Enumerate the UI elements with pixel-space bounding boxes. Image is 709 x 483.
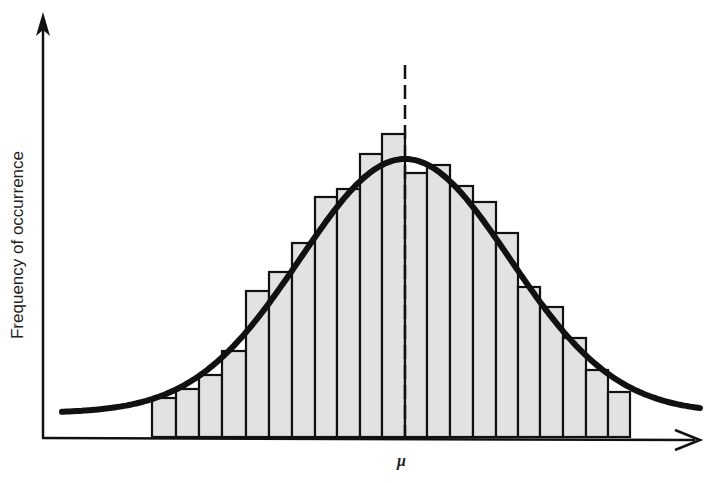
histogram-bar bbox=[586, 370, 608, 437]
histogram-bar bbox=[246, 291, 269, 437]
histogram-bar bbox=[360, 154, 382, 437]
histogram-bar bbox=[382, 134, 405, 437]
histogram-bar bbox=[518, 287, 540, 437]
histogram-bar bbox=[222, 351, 246, 437]
histogram-bar bbox=[292, 243, 315, 437]
histogram-bar bbox=[608, 392, 630, 437]
histogram-bar bbox=[405, 173, 427, 437]
histogram-bar bbox=[152, 398, 176, 437]
histogram-bar bbox=[337, 189, 360, 437]
histogram-bar bbox=[176, 389, 199, 437]
mean-label: μ bbox=[397, 452, 406, 470]
histogram-bar bbox=[450, 186, 473, 437]
histogram-bar bbox=[199, 375, 222, 437]
histogram-bar bbox=[427, 165, 450, 437]
histogram-bars bbox=[152, 134, 630, 437]
histogram-chart bbox=[0, 0, 709, 483]
y-axis bbox=[36, 12, 50, 438]
